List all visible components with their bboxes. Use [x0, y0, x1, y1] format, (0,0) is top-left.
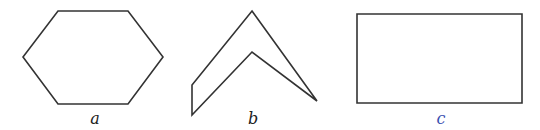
figure-canvas	[0, 0, 540, 130]
chevron-shape	[192, 11, 317, 115]
rectangle-shape	[357, 14, 522, 103]
label-a: a	[90, 109, 100, 128]
label-c: c	[437, 109, 446, 128]
label-b: b	[248, 109, 258, 128]
hexagon-shape	[23, 11, 163, 104]
